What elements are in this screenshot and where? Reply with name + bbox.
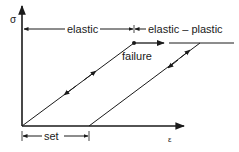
y-axis-label: σ xyxy=(10,14,17,25)
x-axis-label: ε xyxy=(168,135,172,144)
elastic-label: elastic xyxy=(67,23,99,35)
failure-label: failure xyxy=(122,50,152,62)
stress-strain-diagram: σ ε elastic elastic – plastic failure se… xyxy=(0,0,239,152)
elastic-loading-line xyxy=(22,43,134,126)
elastic-plastic-label: elastic – plastic xyxy=(148,23,223,35)
set-label: set xyxy=(44,130,59,142)
